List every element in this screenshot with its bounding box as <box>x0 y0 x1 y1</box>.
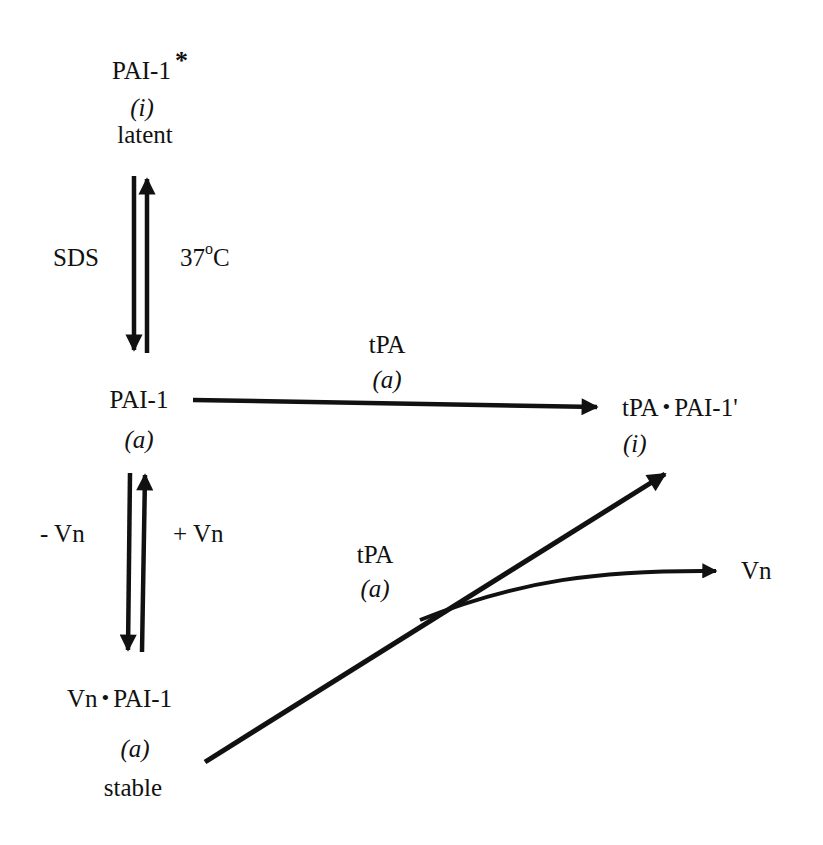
degree-symbol: o <box>205 240 213 257</box>
complex-state: (i) <box>623 431 647 456</box>
heat-value: 37 <box>180 244 205 271</box>
latent-state: (i) <box>130 95 154 120</box>
tpa-diagonal-arrow <box>205 474 665 762</box>
stable-pai1: PAI-1 <box>113 685 172 712</box>
stable-descriptor: stable <box>104 775 162 800</box>
complex-pai1-prime: PAI-1' <box>674 394 737 421</box>
active-state: (a) <box>124 427 153 452</box>
latent-asterisk: * <box>175 46 188 75</box>
plus-vn-label: + Vn <box>173 521 223 546</box>
complex-label: tPA•PAI-1' <box>622 395 738 420</box>
plus-vn-up-arrow <box>142 475 145 652</box>
tpa-top-label: tPA <box>369 332 406 357</box>
latent-descriptor: latent <box>117 122 173 147</box>
minus-vn-label: - Vn <box>40 521 85 546</box>
minus-vn-down-arrow <box>128 473 130 650</box>
complex-bullet: • <box>663 394 671 419</box>
complex-tpa: tPA <box>622 394 659 421</box>
tpa-bottom-state: (a) <box>360 576 389 601</box>
stable-state: (a) <box>120 736 149 761</box>
active-pai1-name: PAI-1 <box>110 387 169 412</box>
stable-bullet: • <box>102 685 110 710</box>
released-vn-label: Vn <box>741 558 772 583</box>
tpa-bottom-label: tPA <box>357 542 394 567</box>
vn-release-arrow <box>420 571 716 620</box>
stable-vn: Vn <box>67 685 98 712</box>
heat-unit: C <box>213 244 230 271</box>
tpa-horizontal-arrow <box>193 400 597 407</box>
heat-label: 37oC <box>180 245 230 270</box>
sds-label: SDS <box>53 245 99 270</box>
latent-pai1-label: PAI-1* <box>112 58 188 84</box>
latent-pai1-name: PAI-1 <box>112 57 171 84</box>
tpa-top-state: (a) <box>372 367 401 392</box>
stable-complex-label: Vn•PAI-1 <box>67 686 172 711</box>
